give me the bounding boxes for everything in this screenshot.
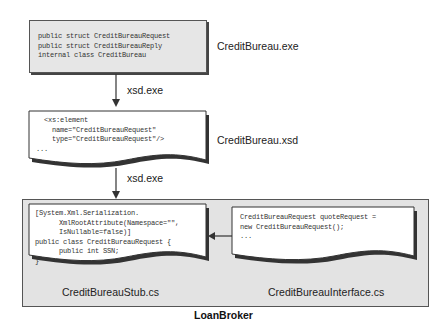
schema-label: CreditBureau.xsd [217, 134, 298, 146]
container-label: LoanBroker [0, 309, 447, 321]
arrow-left-icon [207, 230, 233, 242]
stub-label: CreditBureauStub.cs [62, 286, 159, 298]
code-line: name="CreditBureauRequest" [36, 126, 164, 136]
executable-box: public struct CreditBureauRequestpublic … [29, 20, 207, 73]
code-line: public struct CreditBureauRequest [38, 32, 170, 42]
interface-label: CreditBureauInterface.cs [268, 286, 384, 298]
code-line: IsNullable=false)] [35, 228, 179, 238]
code-line: <xs:element [36, 116, 164, 126]
xsd-exe-step-label: xsd.exe [127, 172, 163, 184]
executable-label: CreditBureau.exe [217, 40, 299, 52]
code-line: new CreditBureauRequest(); [240, 223, 376, 233]
code-line: [System.Xml.Serialization. [35, 209, 179, 219]
code-line: CreditBureauRequest quoteRequest = [240, 213, 376, 223]
code-line: public struct CreditBureauReply [38, 42, 170, 52]
schema-document: <xs:element name="CreditBureauRequest" t… [28, 110, 210, 168]
interface-document: CreditBureauRequest quoteRequest =new Cr… [231, 206, 419, 266]
code-line: ... [36, 145, 164, 155]
code-line: public class CreditBureauRequest { [35, 238, 179, 248]
xsd-exe-step-label: xsd.exe [127, 84, 163, 96]
code-line: ... [240, 232, 376, 242]
arrow-down-icon [110, 74, 122, 108]
stub-document: [System.Xml.Serialization. XmlRootAttrib… [28, 203, 210, 267]
executable-code: public struct CreditBureauRequestpublic … [38, 32, 170, 61]
code-line: XmlRootAttribute(Namespace="", [35, 219, 179, 229]
code-line: } [35, 257, 179, 267]
code-line: internal class CreditBureau [38, 51, 170, 61]
code-line: type="CreditBureauRequest"/> [36, 135, 164, 145]
arrow-down-icon [110, 168, 122, 200]
code-line: public int SSN; [35, 247, 179, 257]
